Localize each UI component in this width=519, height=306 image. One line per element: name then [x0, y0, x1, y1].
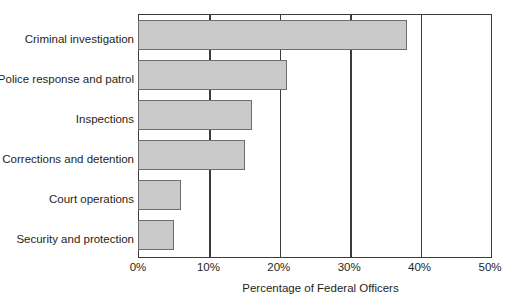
category-label-corrections-and-detention: Corrections and detention [2, 154, 134, 166]
bar-court-operations [138, 180, 182, 210]
gridline-20-percent [280, 15, 282, 257]
x-axis-title-container: Percentage of Federal Officers [0, 283, 519, 295]
xtick-label-40: 40% [408, 262, 431, 274]
xtick-label-50: 50% [478, 262, 501, 274]
bar-criminal-investigation [138, 20, 407, 50]
bar-police-response-and-patrol [138, 60, 287, 90]
bar-security-and-protection [138, 220, 175, 250]
category-label-criminal-investigation: Criminal investigation [25, 34, 134, 46]
gridline-40-percent [421, 15, 423, 257]
category-label-court-operations: Court operations [49, 194, 134, 206]
xtick-label-30: 30% [338, 262, 361, 274]
x-axis-title: Percentage of Federal Officers [242, 283, 398, 295]
bar-inspections [138, 100, 252, 130]
bar-chart: Criminal investigation Police response a… [0, 0, 519, 306]
category-label-inspections: Inspections [76, 114, 134, 126]
gridline-30-percent [350, 15, 352, 257]
plot-area [138, 14, 492, 258]
bar-corrections-and-detention [138, 140, 245, 170]
xtick-label-10: 10% [197, 262, 220, 274]
category-label-police-response-and-patrol: Police response and patrol [0, 74, 134, 86]
category-label-security-and-protection: Security and protection [16, 234, 134, 246]
gridline-10-percent [209, 15, 211, 257]
xtick-label-20: 20% [267, 262, 290, 274]
xtick-label-0: 0% [130, 262, 147, 274]
